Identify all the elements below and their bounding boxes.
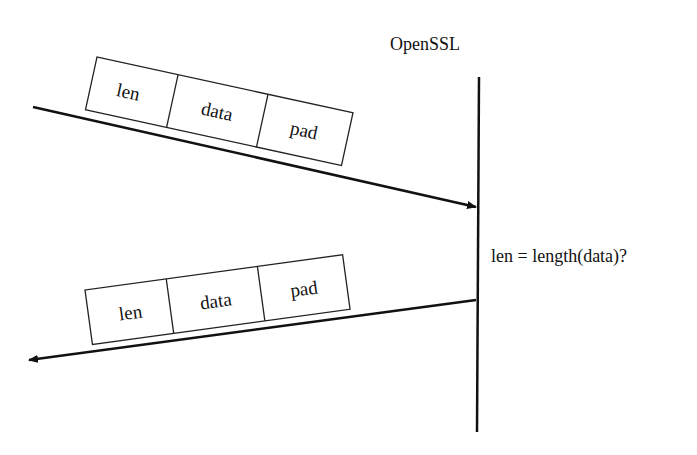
response-packet: len data pad: [85, 255, 350, 345]
response-field-len: len: [118, 300, 144, 324]
server-lifeline: [477, 77, 479, 432]
heartbeat-diagram: OpenSSL len data pad len = length(data)?…: [0, 0, 697, 455]
server-label: OpenSSL: [390, 34, 460, 54]
response-field-pad: pad: [289, 276, 320, 301]
response-field-data: data: [199, 288, 234, 313]
length-check-label: len = length(data)?: [491, 246, 627, 267]
